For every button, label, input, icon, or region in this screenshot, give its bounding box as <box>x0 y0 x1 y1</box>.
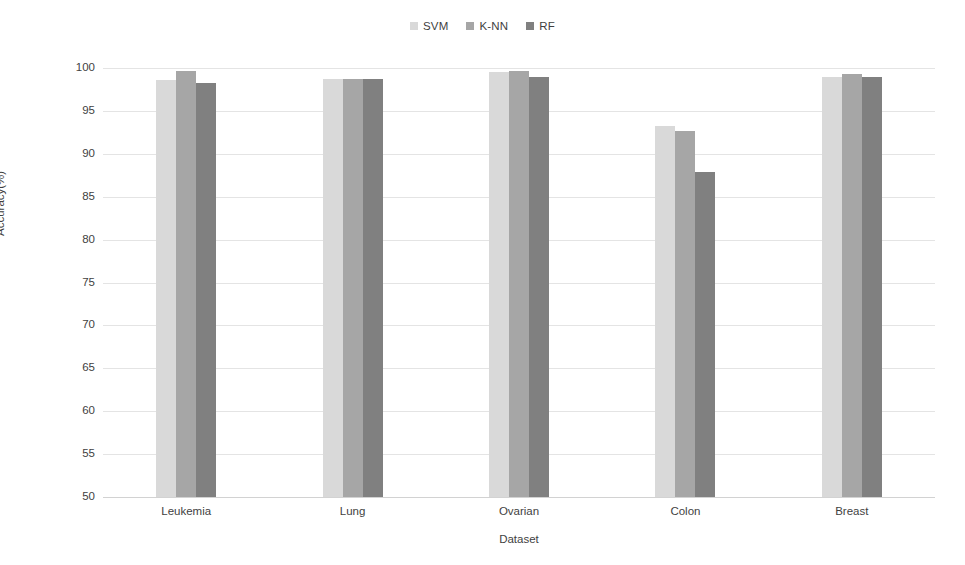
bar-svm-colon[interactable] <box>655 126 675 497</box>
bars <box>822 68 882 497</box>
legend-label-rf: RF <box>539 20 555 32</box>
y-tick-label-65: 65 <box>61 363 95 375</box>
y-tick-label-70: 70 <box>61 320 95 332</box>
x-axis-title: Dataset <box>103 533 935 545</box>
y-tick-label-55: 55 <box>61 448 95 460</box>
bar-k-nn-ovarian[interactable] <box>509 71 529 497</box>
bar-group-breast <box>769 68 935 497</box>
bar-svm-lung[interactable] <box>323 79 343 497</box>
x-tick-label-leukemia: Leukemia <box>103 505 269 517</box>
legend-item-svm[interactable]: SVM <box>410 20 449 32</box>
legend-swatch-svm <box>410 22 418 30</box>
bar-group-colon <box>602 68 768 497</box>
bar-k-nn-leukemia[interactable] <box>176 71 196 497</box>
bar-svm-breast[interactable] <box>822 77 842 497</box>
y-axis-ticks: 10095908580757065605550 <box>55 68 95 497</box>
bar-k-nn-colon[interactable] <box>675 131 695 497</box>
x-tick-label-lung: Lung <box>269 505 435 517</box>
bar-rf-colon[interactable] <box>695 172 715 497</box>
bars <box>489 68 549 497</box>
y-tick-label-85: 85 <box>61 191 95 203</box>
y-tick-label-100: 100 <box>61 62 95 74</box>
bar-groups <box>103 68 935 497</box>
x-tick-label-ovarian: Ovarian <box>436 505 602 517</box>
x-tick-label-colon: Colon <box>602 505 768 517</box>
bar-group-ovarian <box>436 68 602 497</box>
y-tick-label-60: 60 <box>61 405 95 417</box>
y-tick-label-75: 75 <box>61 277 95 289</box>
chart-legend: SVM K-NN RF <box>0 20 965 32</box>
bar-svm-leukemia[interactable] <box>156 80 176 497</box>
bars <box>156 68 216 497</box>
y-tick-label-80: 80 <box>61 234 95 246</box>
legend-item-rf[interactable]: RF <box>526 20 555 32</box>
bar-chart: SVM K-NN RF Accuracy(%) 1009590858075706… <box>0 0 965 565</box>
bar-group-leukemia <box>103 68 269 497</box>
x-tick-label-breast: Breast <box>769 505 935 517</box>
y-tick-label-90: 90 <box>61 148 95 160</box>
bar-rf-leukemia[interactable] <box>196 83 216 497</box>
bar-rf-breast[interactable] <box>862 77 882 497</box>
bars <box>655 68 715 497</box>
legend-item-knn[interactable]: K-NN <box>466 20 508 32</box>
bar-svm-ovarian[interactable] <box>489 72 509 497</box>
y-axis-title: Accuracy(%) <box>0 171 6 236</box>
x-axis-ticks: LeukemiaLungOvarianColonBreast <box>103 505 935 517</box>
bars <box>323 68 383 497</box>
legend-swatch-knn <box>466 22 474 30</box>
bar-group-lung <box>269 68 435 497</box>
bar-k-nn-lung[interactable] <box>343 79 363 497</box>
legend-label-svm: SVM <box>423 20 449 32</box>
y-tick-label-95: 95 <box>61 105 95 117</box>
legend-swatch-rf <box>526 22 534 30</box>
legend-label-knn: K-NN <box>479 20 508 32</box>
gridline-50 <box>103 497 935 498</box>
bar-rf-ovarian[interactable] <box>529 77 549 497</box>
plot-area <box>103 68 935 497</box>
bar-k-nn-breast[interactable] <box>842 74 862 497</box>
y-tick-label-50: 50 <box>61 491 95 503</box>
bar-rf-lung[interactable] <box>363 79 383 497</box>
